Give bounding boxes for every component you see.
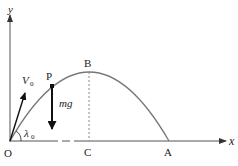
y-axis-label: y bbox=[7, 3, 13, 15]
initial-velocity-label: V 0 bbox=[22, 74, 34, 88]
origin-label: O bbox=[4, 147, 12, 159]
svg-text:V: V bbox=[22, 74, 30, 86]
svg-text:λ: λ bbox=[23, 127, 29, 139]
point-c-label: C bbox=[84, 146, 91, 158]
trajectory-curve bbox=[10, 72, 169, 141]
svg-text:0: 0 bbox=[31, 133, 35, 141]
launch-angle-label: λ 0 bbox=[23, 127, 35, 141]
svg-text:0: 0 bbox=[30, 80, 34, 88]
initial-velocity-arrow bbox=[10, 93, 25, 141]
x-axis-label: x bbox=[228, 134, 235, 148]
point-b-label: B bbox=[84, 57, 91, 69]
launch-angle-arc bbox=[16, 131, 21, 141]
weight-label: mg bbox=[59, 97, 73, 109]
projectile-diagram: y x O B P C A mg V 0 λ 0 bbox=[0, 0, 238, 166]
point-p-label: P bbox=[46, 70, 52, 82]
point-a-label: A bbox=[164, 146, 172, 158]
